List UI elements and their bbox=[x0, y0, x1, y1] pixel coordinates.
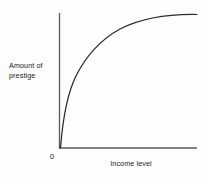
origin-tick-label: 0 bbox=[50, 152, 54, 161]
x-axis-label: Income level bbox=[96, 159, 166, 169]
prestige-curve bbox=[61, 14, 198, 148]
chart-plot-area bbox=[0, 0, 207, 178]
prestige-income-chart: Amount of prestige Income level 0 bbox=[0, 0, 207, 178]
y-axis-label: Amount of prestige bbox=[9, 61, 57, 80]
